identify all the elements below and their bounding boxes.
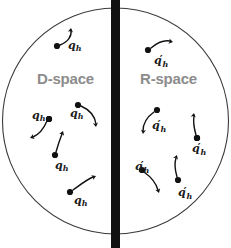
particle-r-4-label: q′h	[135, 160, 149, 174]
particle-d-3-label: qh	[70, 108, 84, 120]
particle-r-5-arrow	[175, 158, 177, 177]
particle-d-5-label: qh	[74, 195, 88, 207]
particle-d-1-label: qh	[68, 40, 82, 52]
r-space-label: R-space	[140, 70, 197, 87]
particle-d-6-dot	[46, 116, 52, 122]
particle-d-4-label: qh	[55, 160, 69, 172]
particle-r-1-arrow	[151, 41, 170, 48]
particle-d-2-arrow	[33, 121, 47, 137]
particle-r-4-arrow	[144, 172, 158, 190]
particle-r-5-dot	[175, 177, 181, 183]
particle-d-5-arrow	[73, 177, 93, 190]
d-space-label: D-space	[37, 70, 94, 87]
central-barrier	[111, 0, 120, 248]
diagram-canvas: D-space R-space qhqhqhqhqhq′hq′hq′hq′hq′…	[0, 0, 231, 248]
particle-d-4-arrow	[56, 134, 62, 152]
particle-r-1-dot	[145, 47, 151, 53]
particle-d-4-dot	[52, 152, 58, 158]
particle-r-2-dot	[154, 107, 160, 113]
particle-d-5-dot	[67, 189, 73, 195]
central-barrier-group	[111, 0, 120, 248]
particle-r-5-label: q′h	[178, 186, 192, 200]
diagram-vector-layer	[0, 0, 231, 248]
particle-r-2-label: q′h	[152, 119, 166, 133]
particle-d-1-dot	[54, 43, 60, 49]
particle-r-3-label: q′h	[192, 142, 206, 156]
particle-r-3-arrow	[194, 116, 196, 135]
particle-d-2-label: qh	[32, 110, 46, 122]
particle-r-1-label: q′h	[154, 54, 168, 68]
